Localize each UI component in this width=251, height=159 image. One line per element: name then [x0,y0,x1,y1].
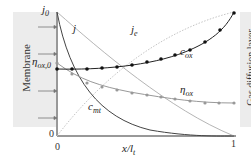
y-zero-label: 0 [49,128,54,139]
curve-eta-ox-label: ηox [180,83,193,98]
j0-label: j0 [42,3,49,18]
arrow-icon [38,26,57,120]
curve-j-label: j [73,22,76,34]
cox-markers [55,11,236,71]
curve-je [57,12,234,136]
curve-cmt [57,12,234,136]
eta-ox0-label: ηox,0 [32,55,51,70]
x-axis-label: x/lt [122,142,135,157]
curve-j [57,12,234,136]
curve-je-label: je [131,23,138,38]
curve-cox-label: cox [180,45,192,60]
curve-cmt-label: cmt [88,100,101,115]
plot-area [0,0,251,159]
x-tick-0: 0 [55,141,60,152]
eta-ox-markers [55,61,235,104]
curve-cox [57,12,234,69]
x-tick-1: 1 [231,138,236,149]
